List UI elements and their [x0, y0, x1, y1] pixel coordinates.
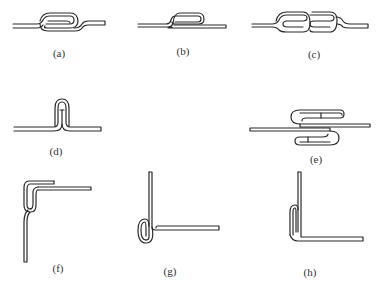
figure-a: [13, 13, 105, 31]
label-a: (a): [53, 47, 65, 59]
label-d: (d): [50, 145, 63, 157]
figure-f: [24, 181, 91, 262]
figure-d: [14, 99, 101, 131]
label-h: (h): [304, 266, 317, 278]
figure-c: [252, 12, 368, 32]
label-c: (c): [308, 48, 320, 60]
figure-e: [250, 110, 370, 145]
label-e: (e): [310, 153, 322, 165]
label-b: (b): [177, 45, 190, 57]
figure-b: [138, 13, 226, 28]
label-g: (g): [164, 265, 177, 277]
label-f: (f): [53, 262, 64, 274]
figure-g: [138, 172, 219, 243]
figure-h: [290, 172, 363, 241]
